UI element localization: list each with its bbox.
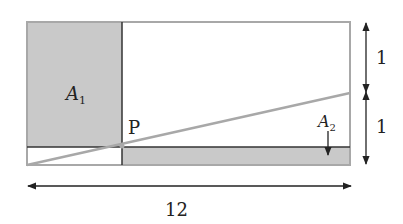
label-dim-top: 1 — [376, 47, 387, 68]
geometry-diagram: A1 P A2 1 1 12 — [0, 0, 403, 224]
region-a2 — [122, 147, 350, 165]
label-p: P — [128, 117, 140, 138]
label-dim-width: 12 — [165, 199, 188, 220]
point-p-marker — [120, 144, 125, 149]
label-dim-bottom: 1 — [376, 116, 387, 137]
label-a2: A2 — [316, 112, 336, 133]
